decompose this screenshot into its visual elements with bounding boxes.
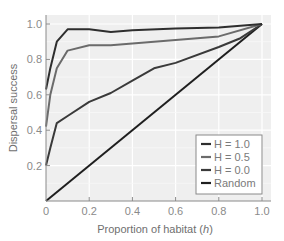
x-tick-label: 0	[43, 205, 49, 217]
x-tick-label: 0.4	[125, 205, 140, 217]
legend: H = 1.0H = 0.5H = 0.0Random	[196, 135, 262, 194]
x-tick-label: 1.0	[254, 205, 269, 217]
y-tick-label: 0.4	[27, 124, 42, 136]
x-axis-label: Proportion of habitat (h)	[97, 223, 213, 235]
legend-label: Random	[214, 177, 256, 189]
dispersal-success-chart: 00.20.40.60.81.0 0.20.40.60.81.0 Proport…	[0, 0, 284, 241]
legend-label: H = 0.0	[214, 164, 250, 176]
x-tick-label: 0.2	[82, 205, 97, 217]
x-tick-label: 0.6	[168, 205, 183, 217]
y-tick-label: 0.2	[27, 160, 42, 172]
y-tick-label: 0.8	[27, 53, 42, 65]
y-axis-label: Dispersal success	[7, 63, 19, 152]
y-tick-label: 1.0	[27, 18, 42, 30]
legend-label: H = 0.5	[214, 151, 250, 163]
x-tick-label: 0.8	[211, 205, 226, 217]
y-tick-label: 0.6	[27, 89, 42, 101]
legend-label: H = 1.0	[214, 138, 250, 150]
